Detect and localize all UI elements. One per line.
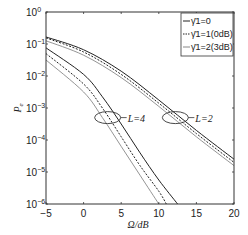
- y-axis-label: Pe: [12, 103, 25, 113]
- y-tick-label: 100: [26, 6, 41, 18]
- annotation-label: L=2: [194, 113, 212, 124]
- legend-label: γ̄1=2(3dB): [191, 42, 233, 52]
- y-tick-label: 10−2: [26, 70, 45, 82]
- y-tick-label: 10−5: [26, 166, 45, 178]
- legend: γ̄1=0γ̄1=1(0dB)γ̄1=2(3dB): [181, 13, 233, 56]
- x-tick-label: 5: [118, 208, 124, 219]
- series-line-2: [46, 41, 234, 166]
- annotation-label: L=4: [127, 113, 145, 124]
- legend-label: γ̄1=0: [191, 16, 211, 26]
- legend-label: γ̄1=1(0dB): [191, 29, 233, 39]
- x-tick-label: 20: [228, 208, 240, 219]
- y-tick-label: 10−3: [26, 102, 45, 114]
- annotations-layer: L=4L=2: [95, 112, 213, 124]
- series-line-5: [46, 60, 159, 204]
- y-tick-label: 10−1: [26, 38, 45, 50]
- chart: −50510152010010−110−210−310−410−510−6 L=…: [0, 0, 248, 235]
- x-tick-label: −5: [40, 208, 52, 219]
- y-tick-label: 10−4: [26, 134, 45, 146]
- x-tick-label: 0: [81, 208, 87, 219]
- series-line-4: [46, 54, 166, 204]
- x-tick-label: 10: [153, 208, 165, 219]
- x-axis-label: Ω/dB: [127, 219, 148, 230]
- x-tick-label: 15: [191, 208, 203, 219]
